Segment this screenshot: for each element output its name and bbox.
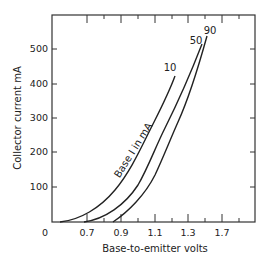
y-axis-title: Collector current mA [12,66,23,170]
transistor-characteristic-chart: 100 200 300 400 500 0 0.7 0.9 1.1 1.3 1.… [0,0,270,260]
annotation-base-current: Base I in mA [112,121,155,180]
y-tick-300: 300 [30,112,48,123]
x-axis-title: Base-to-emitter volts [102,243,208,254]
y-tick-labels: 100 200 300 400 500 [30,43,48,192]
plot-frame [52,15,255,222]
curve-label-10: 10 [164,62,177,73]
x-tick-1.3: 1.3 [180,227,195,238]
curve-label-50: 50 [190,35,203,46]
curve-label-90: 90 [204,25,217,36]
y-tick-100: 100 [30,181,48,192]
x-tick-1.7: 1.7 [214,227,229,238]
curve-base-10mA [60,76,175,222]
curve-base-90mA [113,36,207,222]
x-tick-0: 0 [42,227,48,238]
x-ticks [87,15,239,222]
x-tick-0.7: 0.7 [79,227,94,238]
y-tick-200: 200 [30,146,48,157]
y-ticks [52,49,255,187]
x-tick-1.1: 1.1 [147,227,162,238]
y-tick-400: 400 [30,78,48,89]
y-tick-500: 500 [30,43,48,54]
x-tick-0.9: 0.9 [113,227,128,238]
x-tick-labels: 0 0.7 0.9 1.1 1.3 1.7 [42,227,230,238]
curves [60,36,207,222]
